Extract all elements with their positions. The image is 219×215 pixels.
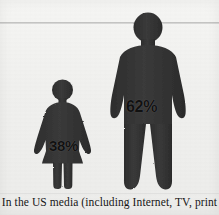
male-leg-right — [150, 124, 172, 190]
male-head — [134, 13, 163, 43]
female-head — [52, 80, 73, 101]
female-figure — [34, 80, 91, 190]
caption-text: In the US media (including Internet, TV,… — [0, 196, 219, 208]
female-leg-right — [64, 163, 73, 189]
pictogram-graphic — [0, 0, 219, 215]
male-leg-left — [124, 124, 146, 190]
female-body — [34, 102, 91, 164]
pictogram-infographic: 38% 62% In the US media (including Inter… — [0, 0, 219, 215]
caption-divider — [0, 193, 219, 194]
female-leg-left — [53, 163, 62, 189]
female-percentage-label: 38% — [49, 137, 78, 154]
male-percentage-label: 62% — [126, 98, 157, 116]
